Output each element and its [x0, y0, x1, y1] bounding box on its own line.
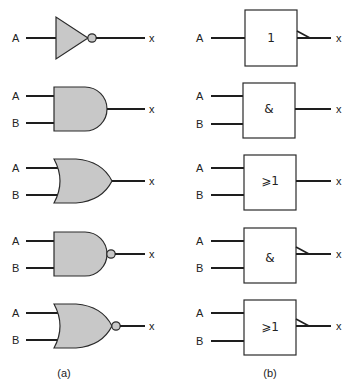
or-body — [54, 159, 112, 203]
and-gate-rectangular: & A B x — [196, 83, 342, 138]
row-nand: A B x & A B x — [12, 228, 342, 283]
row-nor: A B x ⩾1 A B x — [12, 300, 342, 355]
not-gate-rectangular: 1 A x — [196, 10, 342, 66]
input-label-a: A — [12, 307, 20, 319]
logic-gate-symbols-diagram: A x 1 A x A B x & — [0, 0, 349, 385]
input-label-b: B — [12, 334, 19, 346]
gate-symbol: ⩾1 — [261, 320, 279, 334]
negation-indicator-icon — [296, 319, 309, 326]
input-label-a: A — [196, 32, 204, 44]
output-label-x: x — [149, 32, 155, 44]
nor-gate-distinctive: A B x — [12, 304, 155, 348]
output-label-x: x — [336, 248, 342, 260]
not-gate-distinctive: A x — [12, 17, 155, 59]
input-label-b: B — [196, 189, 203, 201]
gate-symbol: ⩾1 — [261, 174, 279, 188]
nand-body — [54, 232, 107, 276]
nand-gate-rectangular: & A B x — [196, 228, 342, 283]
input-label-b: B — [196, 118, 203, 130]
and-gate-distinctive: A B x — [12, 87, 155, 131]
not-triangle — [56, 17, 88, 59]
output-label-x: x — [336, 175, 342, 187]
gate-symbol: 1 — [267, 31, 275, 45]
input-label-b: B — [196, 262, 203, 274]
input-label-b: B — [12, 262, 19, 274]
input-label-a: A — [196, 235, 204, 247]
input-label-a: A — [196, 90, 204, 102]
input-label-a: A — [12, 235, 20, 247]
or-gate-rectangular: ⩾1 A B x — [196, 155, 342, 210]
output-label-x: x — [149, 175, 155, 187]
or-gate-distinctive: A B x — [12, 159, 155, 203]
row-or: A B x ⩾1 A B x — [12, 155, 342, 210]
negation-indicator-icon — [297, 31, 310, 38]
nand-gate-distinctive: A B x — [12, 232, 155, 276]
input-label-b: B — [12, 189, 19, 201]
input-label-b: B — [12, 117, 19, 129]
row-and: A B x & A B x — [12, 83, 342, 138]
nor-body — [54, 304, 112, 348]
inversion-bubble — [107, 250, 115, 258]
output-label-x: x — [149, 248, 155, 260]
input-label-a: A — [196, 162, 204, 174]
output-label-x: x — [336, 32, 342, 44]
inversion-bubble — [88, 34, 96, 42]
negation-indicator-icon — [296, 247, 309, 254]
caption-b: (b) — [263, 367, 276, 379]
output-label-x: x — [336, 320, 342, 332]
input-label-a: A — [12, 162, 20, 174]
caption-a: (a) — [57, 367, 70, 379]
row-not: A x 1 A x — [12, 10, 342, 66]
nor-gate-rectangular: ⩾1 A B x — [196, 300, 342, 355]
output-label-x: x — [149, 103, 155, 115]
input-label-a: A — [12, 90, 20, 102]
output-label-x: x — [336, 103, 342, 115]
gate-symbol: & — [265, 251, 274, 265]
input-label-a: A — [196, 307, 204, 319]
input-label-a: A — [12, 32, 20, 44]
inversion-bubble — [112, 322, 120, 330]
output-label-x: x — [149, 320, 155, 332]
gate-symbol: & — [264, 102, 273, 116]
input-label-b: B — [196, 335, 203, 347]
and-body — [54, 87, 107, 131]
